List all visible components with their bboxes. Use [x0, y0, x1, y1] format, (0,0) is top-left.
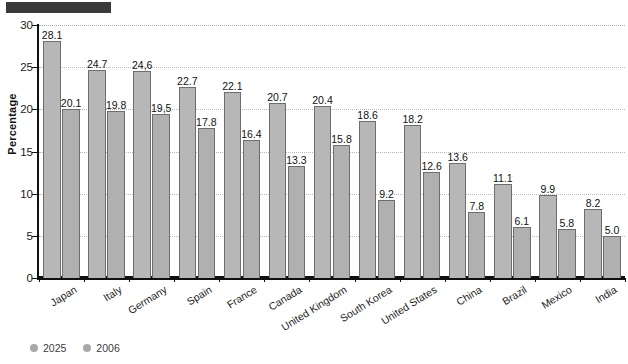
- bar-value-label: 9.2: [379, 188, 394, 200]
- x-label-canada: Canada: [266, 282, 305, 313]
- y-tick-mark: [32, 236, 37, 237]
- bar-value-label: 5.8: [560, 217, 575, 229]
- bar-group: 18.69.2: [359, 25, 396, 278]
- bar-group: 11.16.1: [494, 25, 531, 278]
- bar-value-label: 12.6: [421, 160, 441, 172]
- x-label-france: France: [224, 282, 260, 311]
- bar-2025-spain[interactable]: 22.7: [179, 87, 197, 278]
- circle-marker-icon: [83, 344, 91, 352]
- x-label-text: France: [224, 282, 260, 311]
- bar-2006-germany[interactable]: 19,5: [152, 114, 170, 278]
- bar-group: 22.717.8: [179, 25, 216, 278]
- bar-value-label: 18.6: [357, 109, 377, 121]
- bar-value-label: 19,5: [151, 102, 171, 114]
- y-tick-mark: [32, 25, 37, 26]
- x-label-italy: Italy: [101, 282, 125, 303]
- x-label-text: Brazil: [500, 282, 530, 307]
- bar-2006-spain[interactable]: 17.8: [198, 128, 216, 278]
- bar-value-label: 28.1: [42, 29, 62, 41]
- x-label-text: India: [593, 282, 620, 305]
- bar-group: 8.25.0: [584, 25, 621, 278]
- bar-2025-canada[interactable]: 20.7: [269, 103, 287, 278]
- bar-2006-united-kingdom[interactable]: 15.8: [333, 145, 351, 278]
- bar-2025-united-kingdom[interactable]: 20.4: [314, 106, 332, 278]
- bar-value-label: 8.2: [586, 197, 601, 209]
- x-label-text: Canada: [266, 282, 305, 313]
- legend-item-2006[interactable]: 2006: [83, 342, 119, 354]
- x-label-brazil: Brazil: [500, 282, 530, 307]
- bars-layer: 28.120.124.719.824,619,522.717.822.116.4…: [39, 25, 625, 278]
- bar-2025-italy[interactable]: 24.7: [88, 70, 106, 278]
- bar-2025-japan[interactable]: 28.1: [43, 41, 61, 278]
- bar-2025-brazil[interactable]: 11.1: [494, 184, 512, 278]
- bar-chart: 051015202530 Percentage 28.120.124.719.8…: [0, 0, 628, 364]
- chart-legend: 20252006: [30, 342, 120, 354]
- bar-2006-brazil[interactable]: 6.1: [513, 227, 531, 278]
- bar-group: 28.120.1: [43, 25, 80, 278]
- y-tick-mark: [32, 152, 37, 153]
- bar-2006-india[interactable]: 5.0: [603, 236, 621, 278]
- bar-2025-germany[interactable]: 24,6: [133, 71, 151, 278]
- bar-2025-france[interactable]: 22.1: [224, 92, 242, 278]
- bar-group: 20.415.8: [314, 25, 351, 278]
- bar-2025-india[interactable]: 8.2: [584, 209, 602, 278]
- bar-value-label: 15.8: [331, 133, 351, 145]
- x-tick-mark: [625, 278, 626, 282]
- bar-value-label: 17.8: [196, 116, 216, 128]
- x-label-text: Germany: [125, 282, 170, 316]
- bar-value-label: 13.6: [448, 151, 468, 163]
- bar-value-label: 19.8: [106, 99, 126, 111]
- bar-group: 20.713.3: [269, 25, 306, 278]
- bar-value-label: 18.2: [402, 113, 422, 125]
- x-label-text: Mexico: [539, 282, 575, 311]
- y-tick-mark: [32, 194, 37, 195]
- bar-2006-france[interactable]: 16.4: [243, 140, 261, 278]
- bar-2025-mexico[interactable]: 9.9: [539, 195, 557, 278]
- bar-value-label: 11.1: [493, 172, 513, 184]
- x-axis-category-labels: JapanItalyGermanySpainFranceCanadaUnited…: [39, 282, 625, 334]
- bar-2025-south-korea[interactable]: 18.6: [359, 121, 377, 278]
- bar-value-label: 13.3: [286, 154, 306, 166]
- bar-value-label: 24,6: [132, 59, 152, 71]
- redacted-title-block: [6, 2, 111, 13]
- bar-group: 24,619,5: [133, 25, 170, 278]
- x-label-text: Spain: [184, 282, 215, 307]
- y-axis-title: Percentage: [6, 64, 18, 184]
- x-label-india: India: [593, 282, 620, 305]
- bar-value-label: 7.8: [469, 200, 484, 212]
- x-label-japan: Japan: [48, 282, 80, 308]
- bar-2006-china[interactable]: 7.8: [468, 212, 486, 278]
- y-tick-mark: [32, 109, 37, 110]
- x-label-text: Japan: [48, 282, 80, 308]
- x-label-china: China: [454, 282, 485, 308]
- legend-label: 2025: [43, 342, 66, 354]
- bar-2006-japan[interactable]: 20.1: [62, 109, 80, 279]
- bar-value-label: 9.9: [541, 183, 556, 195]
- bar-value-label: 5.0: [605, 224, 620, 236]
- bar-value-label: 16.4: [241, 128, 261, 140]
- bar-value-label: 6.1: [514, 215, 529, 227]
- bar-value-label: 22.1: [222, 80, 242, 92]
- bar-group: 22.116.4: [224, 25, 261, 278]
- bar-value-label: 20.4: [312, 94, 332, 106]
- bar-group: 24.719.8: [88, 25, 125, 278]
- bar-value-label: 22.7: [177, 75, 197, 87]
- bar-2025-china[interactable]: 13.6: [449, 163, 467, 278]
- x-label-spain: Spain: [184, 282, 215, 307]
- bar-group: 9.95.8: [539, 25, 576, 278]
- x-label-text: China: [454, 282, 485, 308]
- x-label-germany: Germany: [125, 282, 170, 316]
- bar-2006-italy[interactable]: 19.8: [107, 111, 125, 278]
- bar-2006-south-korea[interactable]: 9.2: [378, 200, 396, 278]
- legend-label: 2006: [96, 342, 119, 354]
- circle-marker-icon: [30, 344, 38, 352]
- bar-group: 18.212.6: [404, 25, 441, 278]
- bar-2006-united-states[interactable]: 12.6: [423, 172, 441, 278]
- y-tick-mark: [32, 67, 37, 68]
- bar-2025-united-states[interactable]: 18.2: [404, 125, 422, 278]
- bar-value-label: 20.7: [267, 91, 287, 103]
- legend-item-2025[interactable]: 2025: [30, 342, 66, 354]
- y-tick-mark: [32, 278, 37, 279]
- bar-2006-mexico[interactable]: 5.8: [558, 229, 576, 278]
- bar-2006-canada[interactable]: 13.3: [288, 166, 306, 278]
